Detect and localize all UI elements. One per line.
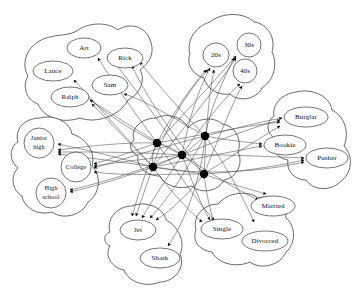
node-pusher[interactable]: Pusher	[306, 148, 348, 168]
node-label-college: College	[66, 163, 86, 170]
node-label-40s: 40s	[240, 67, 250, 75]
node-lance[interactable]: Lance	[33, 61, 73, 81]
node-label-single: Single	[213, 225, 232, 233]
node-30s[interactable]: 30s	[237, 33, 261, 57]
semantic-network-diagram: Art Rick Lance Sam Ralph 20s	[0, 0, 364, 297]
instance-node[interactable]	[153, 139, 161, 147]
node-label-ralph: Ralph	[61, 93, 79, 101]
instance-node[interactable]	[200, 170, 208, 178]
node-shark[interactable]: Shark	[140, 248, 180, 268]
node-sam[interactable]: Sam	[92, 75, 128, 95]
node-label-divorced: Divorced	[252, 237, 279, 245]
instance-node[interactable]	[178, 151, 186, 159]
node-bookie[interactable]: Bookie	[264, 135, 306, 155]
node-label-lance: Lance	[44, 67, 62, 75]
node-label-shark: Shark	[152, 254, 169, 262]
node-label-pusher: Pusher	[317, 154, 337, 162]
node-single[interactable]: Single	[201, 219, 243, 239]
instance-node[interactable]	[201, 132, 209, 140]
node-20s[interactable]: 20s	[203, 43, 229, 67]
node-label-art: Art	[79, 44, 89, 52]
node-label-rick: Rick	[118, 54, 132, 62]
node-label-bookie: Bookie	[275, 141, 296, 149]
node-40s[interactable]: 40s	[233, 59, 257, 83]
node-art[interactable]: Art	[67, 38, 101, 58]
node-label-30s: 30s	[244, 41, 254, 49]
node-high-school[interactable]: High school	[36, 178, 66, 208]
node-label-high-school-line2: school	[42, 193, 59, 200]
node-label-jet: Jet	[134, 226, 142, 234]
ages-cluster-outline	[189, 15, 275, 99]
node-burglar[interactable]: Burglar	[284, 107, 328, 127]
node-ralph[interactable]: Ralph	[51, 87, 89, 107]
node-label-junior-high-line2: high	[33, 143, 45, 150]
node-junior-high[interactable]: Junior high	[24, 128, 54, 158]
node-label-20s: 20s	[211, 51, 221, 59]
network-canvas: Art Rick Lance Sam Ralph 20s	[0, 0, 364, 297]
node-divorced[interactable]: Divorced	[242, 231, 288, 251]
node-married[interactable]: Married	[251, 196, 295, 216]
node-label-sam: Sam	[104, 81, 117, 89]
node-label-junior-high-line1: Junior	[31, 134, 48, 141]
node-jet[interactable]: Jet	[120, 220, 156, 240]
node-college[interactable]: College	[61, 152, 91, 182]
node-label-high-school-line1: High	[45, 184, 59, 191]
node-label-married: Married	[261, 202, 285, 210]
node-rick[interactable]: Rick	[107, 48, 143, 68]
instance-node[interactable]	[149, 163, 157, 171]
node-label-burglar: Burglar	[295, 113, 318, 121]
